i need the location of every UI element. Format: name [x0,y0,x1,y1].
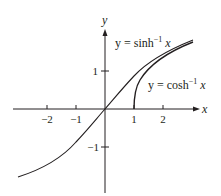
x-axis-label: x [201,102,208,116]
y-tick-label: −1 [87,141,99,153]
x-tick-label: 2 [160,113,166,125]
plot-area: −2 −1 1 2 1 −1 x y y = sinh−1x y = cosh−… [0,0,221,196]
y-axis-arrow-icon [103,29,108,36]
x-tick-label: 1 [131,113,137,125]
sinh-inverse-label: y = sinh−1x [115,35,171,50]
cosh-inverse-label: y = cosh−1x [148,77,206,92]
chart: −2 −1 1 2 1 −1 x y y = sinh−1x y = cosh−… [0,0,221,196]
y-axis-label: y [101,13,108,27]
x-tick-label: −2 [41,113,53,125]
x-tick-label: −1 [70,113,82,125]
x-axis-arrow-icon [193,107,200,112]
cosh-inverse-curve [134,42,193,109]
y-tick-label: 1 [93,65,99,77]
